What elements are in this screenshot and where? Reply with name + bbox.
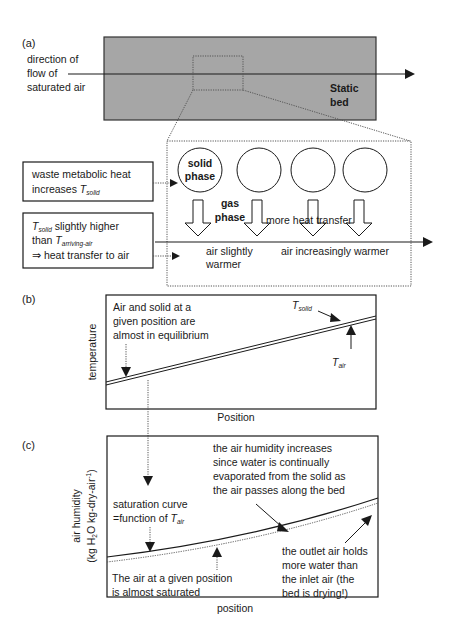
gas-phase-label-2: phase [215, 211, 246, 223]
saturated-note-1: The air at a given position [112, 572, 232, 584]
panel-c-label: (c) [22, 439, 35, 451]
humidity-note-3: evaporated from the solid as [213, 470, 346, 482]
t-solid-label: Tsolid [292, 299, 312, 312]
outlet-note-2: more water than [282, 559, 358, 571]
humidity-note-pointer [256, 504, 282, 527]
outlet-note-1: the outlet air holds [282, 545, 368, 557]
chart-c-ylabel-1: air humidity [70, 488, 82, 542]
panel-a-label: (a) [22, 37, 35, 49]
saturation-note-1: saturation curve [113, 498, 188, 510]
air-slightly-warmer-1: air slightly [206, 245, 253, 257]
panel-b-label: (b) [22, 293, 35, 305]
solid-particle-4 [343, 148, 387, 192]
t-solid-arrow-icon [330, 313, 341, 322]
outlet-note-3: the inlet air (the [282, 573, 355, 585]
saturation-note-2: =function of Tair [113, 512, 185, 525]
flow-text-3: saturated air [27, 81, 86, 93]
flow-text-1: direction of [27, 53, 78, 65]
equilibrium-note-1: Air and solid at a [113, 301, 191, 313]
solid-particle-3 [291, 148, 335, 192]
t-air-label: Tair [332, 356, 346, 369]
humidity-note-4: the air passes along the bed [213, 484, 345, 496]
outlet-note-4: bed is drying!) [282, 587, 348, 599]
chart-c-ylabel-2: (kg H2O kg-dry-air-1) [85, 469, 98, 562]
panel-c: (c) air humidity (kg H2O kg-dry-air-1) p… [22, 436, 378, 614]
humidity-note-1: the air humidity increases [213, 442, 332, 454]
static-bed-label-1: Static [330, 82, 359, 94]
outlet-note-arrow-icon [361, 515, 372, 526]
chart-b-xlabel: Position [217, 411, 255, 423]
heat-transfer-arrow-icon [172, 252, 180, 260]
chart-c-xlabel: position [217, 602, 253, 614]
equilibrium-note-3: almost in equilibrium [113, 329, 209, 341]
air-increasingly-warmer: air increasingly warmer [281, 245, 389, 257]
air-slightly-warmer-2: warmer [205, 258, 242, 270]
air-flow-arrow-head-icon [423, 237, 433, 247]
solid-particle-2 [237, 148, 281, 192]
humidity-note-2: since water is continually [213, 456, 330, 468]
metabolic-heat-line1: waste metabolic heat [31, 168, 131, 180]
heat-transfer-arrow-1-icon [185, 200, 211, 236]
solid-phase-label-1: solid [188, 157, 213, 169]
b-to-c-arrow-icon [143, 476, 153, 486]
humidity-note-arrow-icon [277, 522, 289, 532]
more-heat-transfer-label: more heat transfer [266, 214, 352, 226]
diagram-canvas: (a) Static bed direction of flow of satu… [0, 0, 449, 640]
metabolic-heat-arrow-icon [170, 179, 178, 187]
flow-text-2: flow of [27, 67, 57, 79]
heat-transfer-line3: ⇒ heat transfer to air [32, 249, 130, 261]
equilibrium-arrow-icon [121, 367, 131, 377]
flow-arrow-head-icon [405, 69, 415, 79]
solid-phase-label-2: phase [185, 170, 216, 182]
panel-a: (a) Static bed direction of flow of satu… [22, 37, 433, 286]
equilibrium-note-2: given position are [113, 315, 195, 327]
outlet-note-pointer [345, 522, 366, 543]
saturated-note-arrow-icon [212, 547, 222, 557]
saturated-note-2: is almost saturated [112, 586, 200, 598]
gas-phase-label-1: gas [221, 197, 239, 209]
t-air-arrow-icon [346, 325, 356, 335]
chart-b-ylabel: temperature [86, 324, 98, 381]
static-bed-label-2: bed [330, 96, 349, 108]
